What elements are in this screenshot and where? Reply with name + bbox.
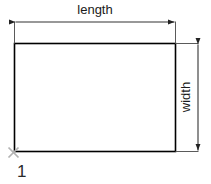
x-marker-icon <box>9 148 19 158</box>
width-label: width <box>178 82 193 113</box>
dimension-diagram: length width 1 <box>0 0 211 184</box>
rectangle-shape <box>15 44 176 152</box>
origin-point-label: 1 <box>17 162 26 181</box>
length-label: length <box>77 2 112 17</box>
diagram-canvas: length width 1 <box>0 0 211 184</box>
